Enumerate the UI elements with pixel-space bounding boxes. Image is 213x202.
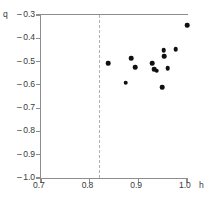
x-axis-unit-label: h: [199, 180, 204, 190]
x-tick-label: 1.0: [179, 180, 191, 190]
data-point: [150, 61, 155, 66]
y-tick: [36, 154, 41, 155]
x-tick-label: 0.9: [130, 180, 142, 190]
data-point: [174, 47, 179, 52]
y-tick-label: – 0.6: [0, 79, 35, 89]
y-tick: [36, 131, 41, 132]
y-tick: [36, 14, 41, 15]
data-point: [165, 66, 170, 71]
y-tick-label: – 0.3: [0, 9, 35, 19]
x-tick-label: 0.7: [33, 180, 45, 190]
data-point: [185, 23, 190, 28]
data-point: [160, 85, 165, 90]
y-tick: [36, 108, 41, 109]
data-point: [106, 61, 111, 66]
reference-vline: [99, 15, 100, 178]
y-tick: [36, 84, 41, 85]
data-point: [162, 54, 167, 59]
y-tick-label: – 0.8: [0, 125, 35, 135]
y-tick-label: – 0.4: [0, 32, 35, 42]
y-tick: [36, 38, 41, 39]
y-tick-label: – 1.0: [0, 172, 35, 182]
x-axis-spine: [40, 178, 188, 179]
y-tick-label: – 0.5: [0, 56, 35, 66]
data-point: [155, 68, 160, 73]
data-point: [161, 48, 166, 53]
plot-area: [41, 15, 187, 178]
data-point: [123, 80, 128, 85]
data-point: [129, 56, 134, 61]
scatter-chart-figure: q h – 0.3– 0.4– 0.5– 0.6– 0.7– 0.8– 0.9–…: [0, 0, 213, 202]
y-tick-label: – 0.7: [0, 102, 35, 112]
y-tick: [36, 61, 41, 62]
x-tick-label: 0.8: [82, 180, 94, 190]
y-tick-label: – 0.9: [0, 149, 35, 159]
data-point: [133, 65, 138, 70]
